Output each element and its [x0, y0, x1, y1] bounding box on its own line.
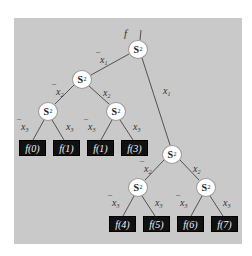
tree-node: S2 [38, 102, 58, 121]
node-subscript: 2 [140, 46, 143, 52]
node-symbol: S [43, 106, 49, 117]
root-function-label: f [124, 27, 127, 39]
edge-n6-l7 [210, 196, 223, 216]
node-symbol: S [77, 74, 83, 85]
edge-n0-n4 [142, 58, 170, 145]
tree-node: S2 [128, 178, 148, 197]
edge-n6-l6 [191, 196, 202, 216]
edge-label-x2: x2 [193, 164, 200, 175]
edge-n3-l2 [101, 120, 112, 140]
node-symbol: S [111, 106, 117, 117]
edge-label-not-x3: ¯x3 [84, 122, 95, 133]
edge-label-x3: x3 [66, 122, 73, 133]
node-subscript: 2 [208, 184, 211, 190]
edge-label-not-x2: ¯x2 [140, 164, 151, 175]
leaf-f4: f(4) [109, 216, 136, 232]
node-symbol: S [133, 44, 139, 55]
edge-label-not-x2: ¯x2 [52, 87, 63, 98]
edge-label-x2: x2 [103, 88, 110, 99]
leaf-f3: f(3) [121, 140, 148, 156]
edge-label-not-x1: ¯x1 [96, 55, 107, 66]
node-subscript: 2 [84, 76, 87, 82]
edge-label-x3: x3 [223, 198, 230, 209]
edge-label-not-x3: ¯x3 [108, 198, 119, 209]
leaf-f0: f(0) [19, 140, 46, 156]
leaf-f1-dup: f(1) [87, 140, 114, 156]
leaf-f1: f(1) [53, 140, 80, 156]
edge-n2-l0 [33, 120, 44, 140]
leaf-f7: f(7) [211, 216, 238, 232]
node-subscript: 2 [50, 108, 53, 114]
edge-n5-l5 [142, 196, 155, 216]
edge-label-not-x3: ¯x3 [176, 198, 187, 209]
tree-node: S2 [196, 178, 216, 197]
tree-node: S2 [106, 102, 126, 121]
root-input-edge [140, 30, 141, 40]
tree-node-root: S2 [128, 40, 148, 59]
node-symbol: S [133, 182, 139, 193]
node-subscript: 2 [118, 108, 121, 114]
edge-label-x3: x3 [133, 122, 140, 133]
node-symbol: S [201, 182, 207, 193]
leaf-f6: f(6) [177, 216, 204, 232]
edge-n5-l4 [123, 196, 134, 216]
node-symbol: S [167, 149, 173, 160]
leaf-f5: f(5) [143, 216, 170, 232]
edge-n2-l1 [52, 120, 64, 140]
edge-n3-l3 [120, 120, 133, 140]
node-subscript: 2 [140, 184, 143, 190]
edge-label-x1: x1 [163, 86, 170, 97]
edge-label-not-x3: ¯x3 [17, 122, 28, 133]
tree-node: S2 [162, 145, 182, 164]
node-subscript: 2 [174, 151, 177, 157]
edge-label-x3: x3 [155, 198, 162, 209]
tree-node: S2 [72, 70, 92, 89]
